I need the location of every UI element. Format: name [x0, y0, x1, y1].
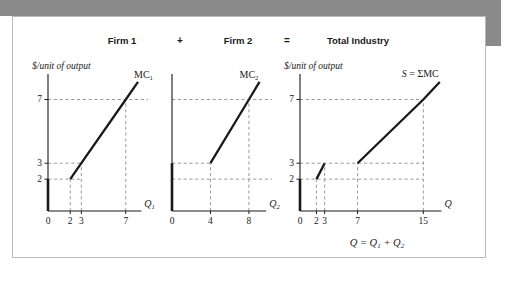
- x-axis-label: Q: [444, 198, 451, 209]
- x-tick-label: 3: [322, 216, 327, 226]
- figure-root: Firm 1 + Firm 2 = Total Industry 0237237…: [0, 0, 519, 285]
- y-tick-label: 3: [289, 158, 294, 168]
- x-tick-label: 7: [355, 216, 360, 226]
- figure-caption: Q = Q1 + Q2: [350, 237, 405, 248]
- curve-S_upper: [358, 82, 440, 163]
- y-tick-label: 2: [289, 174, 294, 184]
- curve-S_lower_kink: [316, 163, 324, 179]
- panel-3-graphic: [0, 0, 519, 285]
- y-tick-label: 7: [289, 94, 294, 104]
- x-tick-label: 15: [419, 216, 429, 226]
- y-axis-label: $/unit of output: [284, 61, 343, 71]
- x-tick-label: 2: [314, 216, 319, 226]
- figure-stage: Firm 1 + Firm 2 = Total Industry 0237237…: [0, 0, 519, 285]
- curve-label: S = ΣMC: [402, 68, 439, 79]
- x-tick-label: 0: [298, 216, 303, 226]
